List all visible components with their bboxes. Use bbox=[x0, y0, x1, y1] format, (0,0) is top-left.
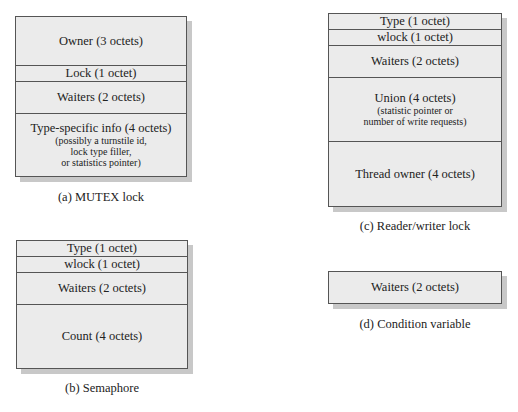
field-label: Union (4 octets) bbox=[374, 92, 455, 105]
mutex-waiters-field: Waiters (2 octets) bbox=[16, 82, 186, 114]
mutex-owner-field: Owner (3 octets) bbox=[16, 17, 186, 66]
rwlock-caption: (c) Reader/writer lock bbox=[328, 219, 502, 234]
semaphore-type-field: Type (1 octet) bbox=[17, 241, 187, 257]
field-note: number of write requests) bbox=[363, 116, 466, 127]
field-label: Type (1 octet) bbox=[380, 15, 450, 28]
field-label: Thread owner (4 octets) bbox=[355, 168, 475, 181]
mutex-lock-structure: Owner (3 octets) Lock (1 octet) Waiters … bbox=[15, 16, 187, 177]
semaphore-structure: Type (1 octet) wlock (1 octet) Waiters (… bbox=[16, 240, 188, 369]
field-note: lock type filler, bbox=[71, 146, 132, 157]
field-note: or statistics pointer) bbox=[61, 157, 140, 168]
semaphore-waiters-field: Waiters (2 octets) bbox=[17, 273, 187, 305]
rwlock-wlock-field: wlock (1 octet) bbox=[329, 30, 501, 46]
field-note: (possibly a turnstile id, bbox=[55, 135, 147, 146]
field-label: Waiters (2 octets) bbox=[371, 55, 459, 68]
rwlock-thread-owner-field: Thread owner (4 octets) bbox=[329, 142, 501, 206]
field-label: Lock (1 octet) bbox=[66, 67, 137, 80]
field-label: Type (1 octet) bbox=[67, 242, 137, 255]
condvar-caption: (d) Condition variable bbox=[328, 317, 502, 332]
field-label: Waiters (2 octets) bbox=[371, 281, 459, 294]
field-label: Waiters (2 octets) bbox=[57, 91, 145, 104]
mutex-lock-field: Lock (1 octet) bbox=[16, 66, 186, 82]
rwlock-type-field: Type (1 octet) bbox=[329, 14, 501, 30]
field-label: wlock (1 octet) bbox=[377, 31, 453, 44]
field-label: Owner (3 octets) bbox=[59, 35, 143, 48]
rwlock-union-field: Union (4 octets) (statistic pointer or n… bbox=[329, 78, 501, 142]
field-note: (statistic pointer or bbox=[377, 105, 453, 116]
condvar-waiters-field: Waiters (2 octets) bbox=[329, 272, 501, 303]
semaphore-wlock-field: wlock (1 octet) bbox=[17, 257, 187, 273]
semaphore-count-field: Count (4 octets) bbox=[17, 305, 187, 368]
field-label: Count (4 octets) bbox=[62, 330, 143, 343]
rwlock-structure: Type (1 octet) wlock (1 octet) Waiters (… bbox=[328, 13, 502, 207]
field-label: Type-specific info (4 octets) bbox=[30, 122, 171, 135]
field-label: wlock (1 octet) bbox=[64, 258, 140, 271]
rwlock-waiters-field: Waiters (2 octets) bbox=[329, 46, 501, 78]
semaphore-caption: (b) Semaphore bbox=[16, 381, 188, 396]
mutex-caption: (a) MUTEX lock bbox=[15, 190, 187, 205]
mutex-type-specific-field: Type-specific info (4 octets) (possibly … bbox=[16, 114, 186, 176]
field-label: Waiters (2 octets) bbox=[58, 282, 146, 295]
condition-variable-structure: Waiters (2 octets) bbox=[328, 271, 502, 304]
